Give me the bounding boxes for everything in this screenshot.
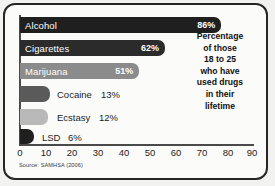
bar-value-alcohol: 86% <box>197 20 215 30</box>
bar-label-cigarettes: Cigarettes <box>25 43 69 54</box>
annotation-line-2: of those <box>181 43 259 55</box>
bar-value-cigarettes: 62% <box>141 43 159 53</box>
annotation-line-1: Percentage <box>181 31 259 43</box>
bar-cigarettes[interactable]: Cigarettes 62% <box>20 40 165 56</box>
bar-lsd[interactable] <box>20 129 34 144</box>
annotation-line-6: in their <box>181 89 259 101</box>
x-tick-70: 70 <box>197 147 208 158</box>
x-tick-20: 20 <box>67 147 78 158</box>
chart-annotation: Percentage of those 18 to 25 who have us… <box>181 31 259 112</box>
x-tick-80: 80 <box>223 147 234 158</box>
bar-cocaine[interactable] <box>20 86 50 102</box>
bar-value-lsd: 6% <box>68 131 82 142</box>
x-tick-50: 50 <box>145 147 156 158</box>
bar-value-cocaine: 13% <box>101 89 120 100</box>
bar-value-ecstasy: 12% <box>99 112 118 123</box>
x-axis-tick-labels: 0 10 20 30 40 50 60 70 80 90 <box>16 147 258 161</box>
annotation-line-3: 18 to 25 <box>181 54 259 66</box>
x-tick-10: 10 <box>41 147 52 158</box>
bar-label-lsd: LSD <box>42 131 60 142</box>
annotation-line-4: who have <box>181 66 259 78</box>
bar-marijuana[interactable]: Marijuana 51% <box>20 63 139 79</box>
x-tick-30: 30 <box>93 147 104 158</box>
bar-value-marijuana: 51% <box>115 66 133 76</box>
x-tick-90: 90 <box>247 147 258 158</box>
x-tick-60: 60 <box>171 147 182 158</box>
bar-label-marijuana: Marijuana <box>25 66 68 77</box>
bar-ecstasy[interactable] <box>20 109 48 125</box>
bar-label-alcohol: Alcohol <box>25 20 57 31</box>
annotation-line-7: lifetime <box>181 101 259 113</box>
annotation-line-5: used drugs <box>181 77 259 89</box>
bar-row-lsd: LSD 6% <box>20 129 254 144</box>
x-tick-40: 40 <box>119 147 130 158</box>
chart-frame: Alcohol 86% Cigarettes 62% Marijuana 51% <box>3 3 268 180</box>
x-axis-line <box>19 144 254 146</box>
x-tick-0: 0 <box>17 147 22 158</box>
bar-label-ecstasy: Ecstasy <box>57 112 90 123</box>
bar-label-cocaine: Cocaine <box>57 89 92 100</box>
chart-screenshot: Alcohol 86% Cigarettes 62% Marijuana 51% <box>0 0 275 186</box>
source-caption: Source: SAMHSA (2006) <box>19 162 83 168</box>
